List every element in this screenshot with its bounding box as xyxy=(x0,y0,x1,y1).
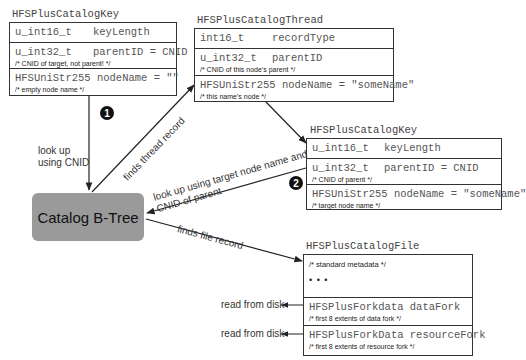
label-line: using CNID xyxy=(38,157,89,169)
code: HFSPlusForkData resourceFork xyxy=(309,328,467,342)
field: keyLength xyxy=(384,142,441,154)
metadata-comment: /* standard metadata */ xyxy=(309,260,467,270)
arrow-finds-thread xyxy=(92,85,194,192)
key1-row-nodename: HFSUniStr255 nodeName = "" /* empty node… xyxy=(10,69,176,95)
comment: /* target node name */ xyxy=(312,201,496,211)
ellipsis: • • • xyxy=(309,275,467,285)
thread-row-parentid: u_int32_tparentID /* CNID of this node's… xyxy=(195,49,393,76)
label-lookup-cnid: look up using CNID xyxy=(38,145,89,169)
thread-title: HFSPlusCatalogThread xyxy=(197,14,323,26)
field: recordType xyxy=(272,32,335,44)
field: parentID xyxy=(272,52,322,64)
btree-label: Catalog B-Tree xyxy=(37,209,138,226)
type: u_int16_t xyxy=(312,141,384,155)
label-read-datafork: read from disk xyxy=(221,299,284,311)
field: parentID = CNID xyxy=(93,46,188,58)
comment: /* CNID of this node's parent */ xyxy=(200,65,388,75)
file-row-resourcefork: HFSPlusForkData resourceFork /* first 8 … xyxy=(304,326,472,355)
file-struct: /* standard metadata */ • • • HFSPlusFor… xyxy=(303,254,473,356)
catalog-btree-node: Catalog B-Tree xyxy=(32,193,144,241)
file-row-datafork: HFSPlusForkdata dataFork /* first 8 exte… xyxy=(304,298,472,326)
type: HFSUniStr255 xyxy=(15,71,91,85)
type: u_int32_t xyxy=(312,161,384,175)
thread-row-recordtype: int16_trecordType xyxy=(195,29,393,49)
field: nodeName = "someName" xyxy=(282,79,414,91)
arrow-thread-to-key2 xyxy=(266,102,306,143)
file-title: HFSPlusCatalogFile xyxy=(306,240,419,252)
thread-row-nodename: HFSUniStr255 nodeName = "someName" /* th… xyxy=(195,76,393,101)
key1-struct: u_int16_tkeyLength u_int32_tparentID = C… xyxy=(9,22,177,96)
key2-struct: u_int16_tkeyLength u_int32_tparentID = C… xyxy=(306,138,502,210)
step-1-badge: 1 xyxy=(100,106,114,120)
comment: /* CNID of target, not parent! */ xyxy=(15,59,171,69)
type: int16_t xyxy=(200,31,272,45)
comment: /* empty node name */ xyxy=(15,85,171,95)
type: HFSUniStr255 xyxy=(312,187,388,201)
field: keyLength xyxy=(93,26,150,38)
key1-row-parentid: u_int32_tparentID = CNID /* CNID of targ… xyxy=(10,43,176,69)
label-line: look up xyxy=(38,145,89,157)
step-2-badge: 2 xyxy=(289,176,303,190)
comment: /* first 8 extents of data fork */ xyxy=(309,314,467,324)
type: u_int32_t xyxy=(200,51,272,65)
key2-row-nodename: HFSUniStr255 nodeName = "someName" /* ta… xyxy=(307,185,501,211)
field: parentID = CNID xyxy=(384,162,479,174)
type: HFSUniStr255 xyxy=(200,78,276,92)
comment: /* this name's node */ xyxy=(200,92,388,102)
key2-row-parentid: u_int32_tparentID = CNID /* CNID of pare… xyxy=(307,159,501,185)
file-row-metadata: /* standard metadata */ • • • xyxy=(304,255,472,298)
key1-row-keylength: u_int16_tkeyLength xyxy=(10,23,176,43)
label-read-resourcefork: read from disk xyxy=(221,328,284,340)
key1-title: HFSPlusCatalogKey xyxy=(12,8,119,20)
key2-row-keylength: u_int16_tkeyLength xyxy=(307,139,501,159)
comment: /* CNID of parent */ xyxy=(312,175,496,185)
thread-struct: int16_trecordType u_int32_tparentID /* C… xyxy=(194,28,394,102)
comment: /* first 8 extents of resource fork */ xyxy=(309,342,467,352)
type: u_int32_t xyxy=(15,45,93,59)
field: nodeName = "" xyxy=(97,72,179,84)
code: HFSPlusForkdata dataFork xyxy=(309,300,467,314)
type: u_int16_t xyxy=(15,25,93,39)
field: nodeName = "someName" xyxy=(394,188,526,200)
key2-title: HFSPlusCatalogKey xyxy=(310,124,417,136)
